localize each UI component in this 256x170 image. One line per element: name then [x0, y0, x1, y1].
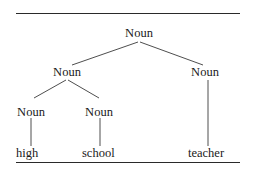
leaf-high: high	[16, 147, 38, 160]
node-left-right: Noun	[85, 106, 113, 119]
leaf-school: school	[82, 147, 115, 160]
edge-root-right	[140, 42, 203, 65]
edge-root-left	[72, 42, 138, 65]
node-left-left: Noun	[17, 106, 45, 119]
edge-left-leftright	[68, 80, 99, 98]
node-left: Noun	[53, 66, 81, 79]
node-root: Noun	[125, 27, 153, 40]
edge-left-leftleft	[34, 80, 66, 98]
tree-diagram: Noun Noun Noun Noun Noun high school tea…	[0, 0, 256, 170]
leaf-teacher: teacher	[188, 147, 224, 160]
node-right: Noun	[191, 66, 219, 79]
